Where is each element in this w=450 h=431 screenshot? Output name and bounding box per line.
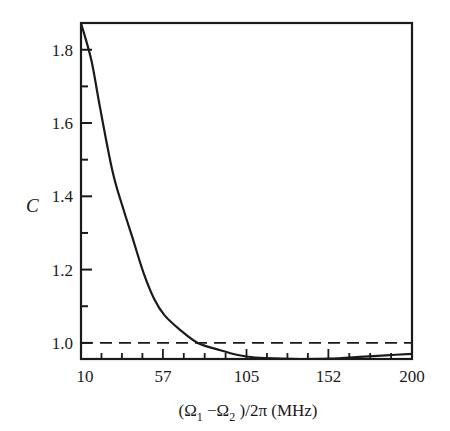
data-curve — [81, 23, 412, 359]
y-tick-label: 1.0 — [52, 334, 73, 353]
plot-frame — [81, 23, 412, 359]
x-axis-label: (Ω1 −Ω2 )/2π (MHz) — [178, 401, 317, 424]
data-series — [81, 23, 412, 359]
x-tick-label: 152 — [316, 367, 342, 386]
y-axis-label: C — [26, 195, 39, 216]
y-tick-label: 1.6 — [52, 114, 73, 133]
x-axis-ticks: 1057105152200 — [77, 349, 425, 386]
y-tick-label: 1.8 — [52, 41, 73, 60]
x-tick-label: 10 — [77, 367, 94, 386]
y-tick-label: 1.2 — [52, 261, 73, 280]
y-tick-label: 1.4 — [52, 187, 74, 206]
x-tick-label: 57 — [154, 367, 172, 386]
x-tick-label: 200 — [399, 367, 425, 386]
chart: 1.01.21.41.61.8 1057105152200 C (Ω1 −Ω2 … — [0, 0, 450, 431]
x-tick-label: 105 — [234, 367, 260, 386]
y-axis-ticks: 1.01.21.41.61.8 — [52, 41, 92, 353]
